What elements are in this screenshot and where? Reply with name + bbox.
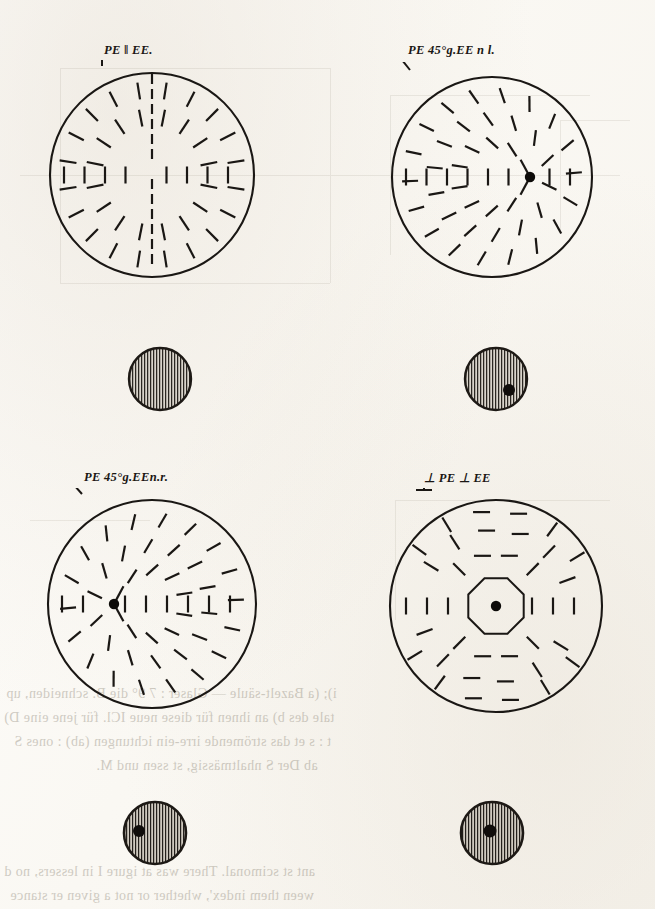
dash-mark: [220, 210, 235, 218]
dash-mark: [206, 109, 218, 121]
dash-mark: [139, 224, 142, 241]
figure-4-diagram: [346, 488, 646, 788]
dash-mark: [486, 138, 498, 149]
dash-mark: [542, 155, 554, 166]
dash-mark: [521, 160, 529, 174]
dash-mark: [228, 160, 245, 163]
figure-4-tick-mark: [416, 488, 432, 490]
dash-mark: [554, 641, 569, 650]
dash-mark: [521, 181, 529, 195]
figure-2-dash-field: [402, 88, 582, 265]
dash-mark: [115, 120, 124, 134]
dash-mark: [176, 593, 192, 595]
figure-2-tick-mark: [394, 62, 410, 70]
dash-mark: [162, 224, 165, 241]
dash-mark: [128, 650, 133, 665]
dash-mark: [228, 187, 245, 190]
dash-mark: [166, 679, 175, 692]
figure-3-label: PE 45°g.EEn.r.: [84, 470, 168, 485]
dash-mark: [110, 243, 118, 258]
dash-mark: [106, 525, 108, 541]
dash-mark: [122, 546, 125, 562]
dash-mark: [507, 198, 516, 211]
dash-mark: [537, 202, 541, 217]
figure-1-dash-field: [60, 74, 245, 267]
dash-mark: [102, 563, 106, 578]
dash-mark: [417, 629, 433, 635]
dash-mark: [165, 628, 179, 635]
dash-mark: [547, 523, 557, 537]
figure-4-center-dot: [491, 601, 501, 611]
dash-mark: [144, 539, 152, 553]
dash-mark: [128, 570, 137, 583]
dash-mark: [559, 577, 575, 583]
dash-mark: [549, 114, 555, 129]
dash-mark: [527, 563, 539, 575]
figure-3-outline: [48, 500, 256, 708]
dash-mark: [453, 637, 465, 649]
dash-mark: [212, 651, 226, 658]
figure-2-diagram: [342, 62, 642, 362]
dash-mark: [406, 151, 422, 154]
dash-mark: [450, 535, 459, 549]
bleed-text-line: ween them index', whether or not a given…: [10, 888, 314, 904]
dash-mark: [413, 545, 427, 555]
dash-mark: [185, 524, 196, 535]
disc-4-spot: [484, 825, 497, 838]
dash-mark: [97, 138, 111, 147]
dash-mark: [137, 83, 140, 100]
dash-mark: [508, 143, 517, 156]
dash-mark: [91, 615, 103, 626]
dash-mark: [69, 133, 84, 141]
dash-mark: [563, 197, 577, 205]
dash-mark: [108, 635, 110, 651]
figure-1-diagram: [2, 60, 302, 360]
dash-mark: [158, 514, 166, 528]
dash-mark: [86, 229, 98, 241]
dash-mark: [224, 627, 240, 630]
dash-mark: [192, 634, 207, 640]
dash-mark: [429, 192, 445, 195]
dash-mark: [402, 181, 418, 182]
dash-mark: [176, 613, 192, 615]
dash-mark: [228, 600, 244, 601]
dash-mark: [457, 122, 470, 132]
dash-mark: [164, 251, 167, 268]
dash-mark: [132, 514, 136, 530]
dash-mark: [484, 113, 493, 126]
dash-mark: [88, 591, 102, 598]
dash-mark: [527, 637, 539, 649]
disc-2-spot: [503, 384, 515, 396]
dash-mark: [87, 162, 104, 165]
dash-mark: [435, 676, 445, 690]
dash-mark: [201, 185, 218, 188]
figure-3-tick-mark: [66, 488, 82, 494]
dash-mark: [478, 251, 486, 265]
dash-mark: [424, 562, 439, 571]
dash-mark: [191, 669, 203, 679]
dash-mark: [165, 573, 179, 580]
dash-mark: [60, 160, 77, 163]
figure-3-center-dot: [109, 599, 119, 609]
dash-mark: [137, 251, 140, 268]
dash-mark: [69, 210, 84, 218]
figure-3-diagram: [2, 488, 302, 788]
dash-mark: [146, 633, 158, 644]
dash-mark: [151, 655, 160, 668]
dash-mark: [87, 654, 93, 669]
dash-mark: [206, 229, 218, 241]
figure-1-label: PE ‖ EE.: [104, 43, 153, 58]
dash-mark: [180, 216, 189, 230]
dash-mark: [541, 680, 550, 695]
dash-mark: [188, 562, 202, 569]
dash-mark: [500, 88, 505, 103]
disc-3-spot: [133, 825, 145, 837]
dash-mark: [220, 133, 235, 141]
dash-mark: [543, 546, 555, 558]
dash-mark: [534, 130, 536, 146]
dash-mark: [187, 243, 195, 258]
dash-mark: [115, 216, 124, 230]
dash-mark: [511, 116, 516, 131]
dash-mark: [207, 543, 221, 551]
dash-mark: [492, 228, 500, 242]
